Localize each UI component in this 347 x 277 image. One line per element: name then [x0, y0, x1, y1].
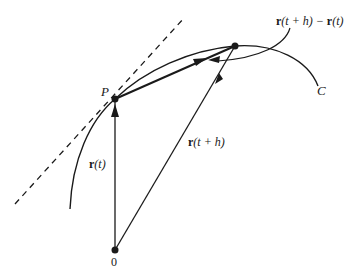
curve-c: [70, 46, 318, 209]
r-t-rest: (t): [94, 157, 105, 171]
vector-secant: [115, 46, 235, 99]
curve-c-label: C: [317, 83, 326, 98]
r-th-rest: (t + h): [193, 135, 224, 149]
point-origin: [112, 247, 119, 254]
arrowhead-r-t: [111, 104, 119, 117]
diagram-canvas: 0 P C r(t) r(t + h) r(t + h) − r(t): [0, 0, 347, 277]
diff-mid: (t + h) −: [281, 14, 327, 28]
arrowhead-secant: [193, 58, 207, 66]
origin-label: 0: [111, 255, 117, 269]
vector-r-t-plus-h-label: r(t + h): [188, 135, 225, 149]
point-q: [232, 43, 239, 50]
vector-secant-label: r(t + h) − r(t): [276, 14, 344, 28]
diff-end: (t): [332, 14, 343, 28]
vector-r-t-label: r(t): [89, 157, 106, 171]
point-p: [112, 96, 119, 103]
point-p-label: P: [100, 84, 109, 99]
